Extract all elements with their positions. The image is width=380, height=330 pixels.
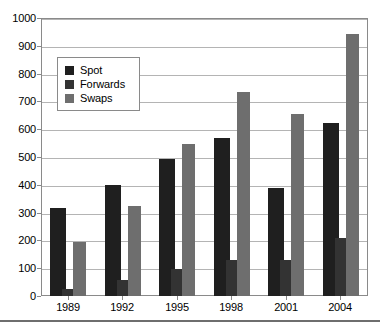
ytick-label-0: 0 (0, 291, 36, 302)
ytick-label-400: 400 (0, 179, 36, 190)
xtick-label-1995: 1995 (149, 302, 205, 313)
bar-swaps (128, 206, 141, 296)
xtick-mark-1 (122, 296, 123, 300)
xtick-label-2004: 2004 (312, 302, 368, 313)
bar-forwards (171, 269, 182, 296)
xtick-label-1989: 1989 (40, 302, 96, 313)
xtick-label-2001: 2001 (258, 302, 314, 313)
legend-swatch-swaps-icon (65, 94, 74, 103)
xtick-mark-0 (68, 296, 69, 300)
bar-group (150, 18, 205, 296)
ytick-label-800: 800 (0, 68, 36, 79)
chart-legend: Spot Forwards Swaps (57, 57, 140, 111)
legend-item-swaps: Swaps (65, 91, 125, 105)
bar-forwards (226, 260, 237, 296)
xtick-mark-3 (231, 296, 232, 300)
bar-forwards (62, 289, 73, 297)
ytick-label-1000: 1000 (0, 13, 36, 24)
ytick-label-700: 700 (0, 96, 36, 107)
bar-group (314, 18, 369, 296)
footer-rule (0, 320, 380, 322)
bar-swaps (73, 242, 86, 296)
legend-item-spot: Spot (65, 63, 125, 77)
ytick-label-300: 300 (0, 207, 36, 218)
bar-swaps (237, 92, 250, 296)
legend-item-forwards: Forwards (65, 77, 125, 91)
bar-group (259, 18, 314, 296)
bar-swaps (182, 144, 195, 296)
xtick-mark-5 (340, 296, 341, 300)
bar-forwards (335, 238, 346, 296)
legend-swatch-spot-icon (65, 66, 74, 75)
ytick-label-100: 100 (0, 263, 36, 274)
bar-chart: 1000 900 800 700 600 500 400 300 200 100… (0, 0, 380, 330)
xtick-mark-2 (177, 296, 178, 300)
xtick-label-1992: 1992 (94, 302, 150, 313)
legend-label-swaps: Swaps (80, 93, 113, 104)
ytick-label-600: 600 (0, 124, 36, 135)
bar-forwards (117, 280, 128, 296)
ytick-label-200: 200 (0, 235, 36, 246)
xtick-mark-4 (286, 296, 287, 300)
legend-swatch-forwards-icon (65, 80, 74, 89)
ytick-label-900: 900 (0, 40, 36, 51)
bar-group (205, 18, 260, 296)
ytick-mark-0 (37, 296, 41, 297)
legend-label-forwards: Forwards (80, 79, 125, 90)
ytick-label-500: 500 (0, 152, 36, 163)
bar-swaps (346, 34, 359, 296)
bar-spot (50, 208, 66, 296)
xtick-label-1998: 1998 (203, 302, 259, 313)
bar-forwards (280, 260, 291, 296)
bar-swaps (291, 114, 304, 296)
legend-label-spot: Spot (80, 65, 102, 76)
